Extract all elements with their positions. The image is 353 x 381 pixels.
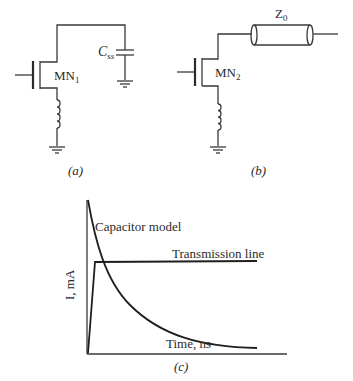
drain-wire	[202, 34, 252, 59]
source-wire	[202, 86, 218, 104]
transistor-label-mn1: MN1	[54, 69, 79, 85]
circuit-a	[15, 25, 134, 153]
figure: MN1 Css (a) MN2 Z0 (b) Capacitor model T…	[0, 0, 353, 381]
ground-icon	[49, 147, 65, 153]
ground-icon	[117, 81, 133, 87]
caption-a: (a)	[68, 164, 83, 177]
caption-c: (c)	[174, 360, 188, 373]
capacitor-model-annotation: Capacitor model	[95, 220, 181, 233]
inductor-icon	[57, 100, 60, 128]
transistor-label-mn2: MN2	[215, 66, 240, 82]
caption-b: (b)	[251, 164, 266, 177]
ground-icon	[210, 147, 226, 153]
capacitor-label-css: Css	[98, 45, 114, 61]
circuit-b	[177, 25, 338, 153]
y-axis-label: I, mA	[63, 270, 76, 300]
transmission-line-label-z0: Z0	[275, 7, 287, 23]
transmission-line-annotation: Transmission line	[172, 247, 264, 260]
transmission-line-icon	[251, 25, 313, 45]
inductor-icon	[218, 104, 221, 130]
x-axis-label: Time, ns	[166, 337, 211, 350]
source-wire	[40, 88, 57, 100]
figure-graphics	[0, 0, 353, 381]
